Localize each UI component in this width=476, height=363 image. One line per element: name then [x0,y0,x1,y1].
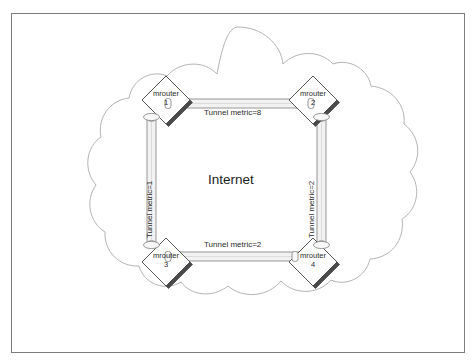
link-bottom-metric-label: Tunnel metric=2 [204,240,261,249]
node-mrouter-2-name: mrouter [293,89,333,98]
node-mrouter-3-number: 3 [146,260,186,269]
node-mrouter-4-number: 4 [293,260,333,269]
internet-cloud-label: Internet [208,172,254,187]
node-mrouter-3-name: mrouter [146,251,186,260]
node-mrouter-4-name: mrouter [293,251,333,260]
node-mrouter-1-name: mrouter [146,89,186,98]
link-pipe-bottom [167,252,312,261]
link-right-metric-label: Tunnel metric=2 [307,181,316,238]
link-top-metric-label: Tunnel metric=8 [204,108,261,117]
link-pipe-right [317,115,326,247]
node-mrouter-1-number: 1 [146,98,186,107]
link-left-metric-label: Tunnel metric=1 [145,181,154,238]
network-diagram: Internet mrouter 1 mrouter 2 mrouter 3 m… [0,0,476,363]
node-mrouter-2-number: 2 [293,98,333,107]
